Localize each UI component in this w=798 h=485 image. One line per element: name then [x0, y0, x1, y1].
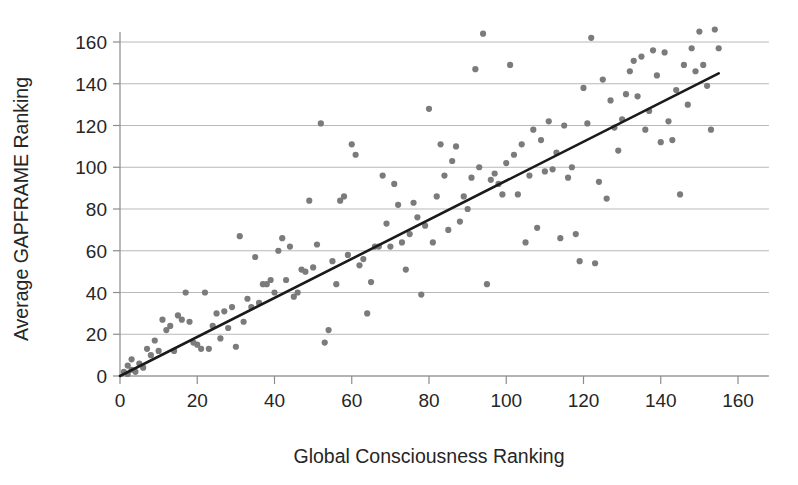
data-point — [159, 317, 165, 323]
data-point — [654, 72, 660, 78]
data-point — [418, 291, 424, 297]
data-point — [580, 85, 586, 91]
data-point — [241, 319, 247, 325]
data-point — [511, 152, 517, 158]
data-point — [395, 202, 401, 208]
data-point — [167, 323, 173, 329]
data-point — [410, 200, 416, 206]
data-point — [681, 62, 687, 68]
data-point — [221, 308, 227, 314]
data-point — [519, 141, 525, 147]
data-point — [202, 289, 208, 295]
data-point — [445, 227, 451, 233]
data-point — [669, 137, 675, 143]
data-point — [577, 258, 583, 264]
data-point — [380, 173, 386, 179]
data-point — [152, 337, 158, 343]
data-point — [499, 191, 505, 197]
data-point — [592, 260, 598, 266]
data-point — [186, 319, 192, 325]
data-point — [156, 348, 162, 354]
data-point — [673, 87, 679, 93]
data-point — [665, 118, 671, 124]
data-point — [600, 76, 606, 82]
data-point — [712, 26, 718, 32]
data-point — [476, 164, 482, 170]
data-point — [638, 54, 644, 60]
data-point — [457, 218, 463, 224]
x-tick-label: 160 — [722, 390, 754, 411]
data-point — [252, 254, 258, 260]
data-point — [692, 68, 698, 74]
data-point — [596, 179, 602, 185]
data-point — [526, 173, 532, 179]
data-point — [634, 93, 640, 99]
data-point — [565, 175, 571, 181]
data-point — [403, 266, 409, 272]
data-point — [465, 206, 471, 212]
data-point — [148, 352, 154, 358]
data-point — [283, 277, 289, 283]
data-point — [561, 122, 567, 128]
data-point — [689, 45, 695, 51]
y-tick-labels: 020406080100120140160 — [75, 32, 107, 387]
data-point — [364, 310, 370, 316]
data-point — [360, 256, 366, 262]
x-tick-label: 120 — [568, 390, 600, 411]
data-point — [704, 83, 710, 89]
data-point — [198, 346, 204, 352]
y-axis-title: Average GAPFRAME Ranking — [10, 77, 32, 341]
trend-line — [120, 73, 719, 376]
data-point — [542, 168, 548, 174]
data-point — [322, 340, 328, 346]
data-point — [716, 45, 722, 51]
x-tick-label: 80 — [418, 390, 439, 411]
data-point — [279, 235, 285, 241]
y-tick-label: 0 — [96, 366, 107, 387]
x-axis-title: Global Consciousness Ranking — [294, 445, 565, 467]
data-point — [213, 310, 219, 316]
y-tick-label: 20 — [86, 324, 107, 345]
data-point — [507, 62, 513, 68]
data-point — [503, 160, 509, 166]
data-point — [480, 31, 486, 37]
data-point — [128, 356, 134, 362]
data-point — [345, 252, 351, 258]
data-point — [387, 243, 393, 249]
data-point — [538, 137, 544, 143]
data-point — [430, 239, 436, 245]
data-point — [244, 296, 250, 302]
data-point — [441, 173, 447, 179]
data-points — [121, 26, 722, 377]
data-point — [607, 97, 613, 103]
y-tick-label: 140 — [75, 74, 107, 95]
data-point — [708, 127, 714, 133]
x-tick-labels: 020406080100120140160 — [115, 390, 754, 411]
data-point — [144, 346, 150, 352]
x-tick-label: 100 — [490, 390, 522, 411]
data-point — [696, 28, 702, 34]
data-point — [522, 239, 528, 245]
data-point — [275, 248, 281, 254]
data-point — [584, 120, 590, 126]
data-point — [453, 143, 459, 149]
data-point — [183, 289, 189, 295]
data-point — [468, 175, 474, 181]
data-point — [414, 214, 420, 220]
data-point — [310, 264, 316, 270]
plot-svg: 020406080100120140160 020406080100120140… — [0, 0, 798, 485]
data-point — [295, 289, 301, 295]
data-point — [573, 231, 579, 237]
data-point — [623, 91, 629, 97]
data-point — [353, 152, 359, 158]
data-point — [271, 289, 277, 295]
data-point — [604, 195, 610, 201]
y-tick-label: 60 — [86, 241, 107, 262]
data-point — [484, 281, 490, 287]
data-point — [677, 191, 683, 197]
data-point — [325, 327, 331, 333]
data-point — [356, 262, 362, 268]
data-point — [449, 158, 455, 164]
data-point — [225, 325, 231, 331]
data-point — [515, 191, 521, 197]
